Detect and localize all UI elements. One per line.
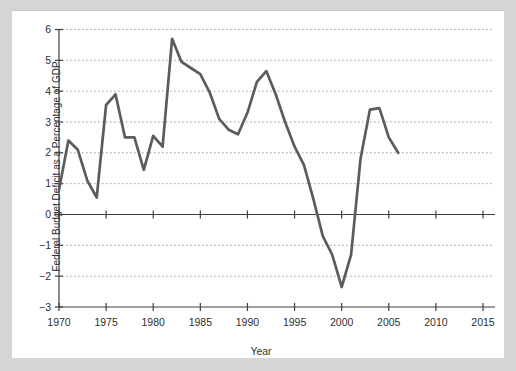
y-tick-label: 6 xyxy=(45,23,51,35)
y-tick-label: 1 xyxy=(45,177,51,189)
x-tick-label: 1985 xyxy=(189,316,213,328)
x-tick-label: 1975 xyxy=(94,316,118,328)
y-tick-label: 5 xyxy=(45,54,51,66)
y-tick-label: −3 xyxy=(39,301,51,313)
figure-page: Federal Budget Deficit as a Percentage o… xyxy=(0,0,516,371)
y-tick-label: −1 xyxy=(39,239,51,251)
y-tick-label: −2 xyxy=(39,270,51,282)
x-tick-label: 2010 xyxy=(424,316,448,328)
x-tick-label: 2015 xyxy=(471,316,495,328)
x-tick-label: 1980 xyxy=(142,316,166,328)
y-tick-label: 0 xyxy=(45,208,51,220)
y-tick-label: 2 xyxy=(45,146,51,158)
x-tick-label: 2000 xyxy=(330,316,354,328)
x-tick-label: 1990 xyxy=(236,316,260,328)
deficit-line-chart: 6543210−1−2−3197019751980198519901995200… xyxy=(0,0,516,371)
deficit-line xyxy=(59,39,398,287)
x-tick-label: 1995 xyxy=(283,316,307,328)
y-tick-label: 3 xyxy=(45,116,51,128)
x-tick-label: 1970 xyxy=(47,316,71,328)
y-tick-label: 4 xyxy=(45,85,51,97)
x-tick-label: 2005 xyxy=(377,316,401,328)
